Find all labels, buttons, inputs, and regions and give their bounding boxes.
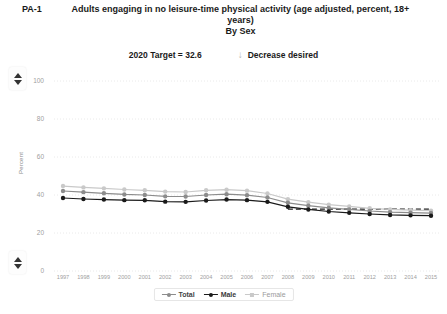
chart-page: PA-1 Adults engaging in no leisure-time … xyxy=(0,0,447,314)
data-point[interactable] xyxy=(286,201,290,205)
data-point[interactable] xyxy=(306,203,310,207)
data-point[interactable] xyxy=(102,191,106,195)
data-point[interactable] xyxy=(224,187,228,191)
data-point[interactable] xyxy=(367,212,371,216)
data-point[interactable] xyxy=(143,188,147,192)
data-point[interactable] xyxy=(61,189,65,193)
data-point[interactable] xyxy=(204,188,208,192)
data-point[interactable] xyxy=(388,213,392,217)
plot-svg xyxy=(0,0,447,314)
data-point[interactable] xyxy=(143,193,147,197)
data-point[interactable] xyxy=(429,214,433,218)
data-point[interactable] xyxy=(408,213,412,217)
data-point[interactable] xyxy=(163,194,167,198)
chart-canvas: Percent 020406080100 1997199819992000200… xyxy=(0,0,447,314)
data-point[interactable] xyxy=(61,196,65,200)
legend-label: Male xyxy=(221,291,237,298)
data-point[interactable] xyxy=(122,198,126,202)
data-point[interactable] xyxy=(102,197,106,201)
data-point[interactable] xyxy=(306,207,310,211)
legend-marker-icon xyxy=(204,291,218,298)
legend-label: Female xyxy=(262,291,285,298)
legend-item-total[interactable]: Total xyxy=(161,291,194,298)
data-point[interactable] xyxy=(81,190,85,194)
data-point[interactable] xyxy=(265,191,269,195)
data-point[interactable] xyxy=(122,192,126,196)
data-point[interactable] xyxy=(183,194,187,198)
data-point[interactable] xyxy=(81,185,85,189)
data-point[interactable] xyxy=(204,198,208,202)
data-point[interactable] xyxy=(265,200,269,204)
data-point[interactable] xyxy=(143,198,147,202)
data-point[interactable] xyxy=(224,192,228,196)
data-point[interactable] xyxy=(224,197,228,201)
legend-item-male[interactable]: Male xyxy=(204,291,237,298)
data-point[interactable] xyxy=(245,198,249,202)
data-point[interactable] xyxy=(347,211,351,215)
data-point[interactable] xyxy=(286,205,290,209)
data-point[interactable] xyxy=(265,195,269,199)
data-point[interactable] xyxy=(183,200,187,204)
data-point[interactable] xyxy=(245,188,249,192)
legend-label: Total xyxy=(178,291,194,298)
data-point[interactable] xyxy=(204,193,208,197)
data-point[interactable] xyxy=(245,193,249,197)
data-point[interactable] xyxy=(183,190,187,194)
data-point[interactable] xyxy=(61,184,65,188)
data-point[interactable] xyxy=(102,186,106,190)
data-point[interactable] xyxy=(122,187,126,191)
legend-marker-icon xyxy=(161,291,175,298)
legend-marker-icon xyxy=(245,291,259,298)
data-point[interactable] xyxy=(163,189,167,193)
legend-item-female[interactable]: Female xyxy=(245,291,285,298)
data-point[interactable] xyxy=(81,197,85,201)
data-point[interactable] xyxy=(163,199,167,203)
data-point[interactable] xyxy=(327,209,331,213)
chart-legend[interactable]: TotalMaleFemale xyxy=(153,288,293,301)
